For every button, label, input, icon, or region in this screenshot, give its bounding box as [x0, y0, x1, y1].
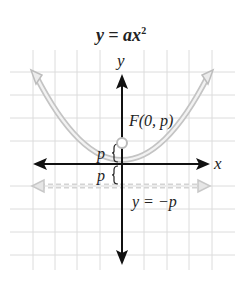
focus-point-icon: [117, 138, 127, 148]
lower-distance-label: p: [97, 168, 105, 184]
x-axis-label: x: [214, 155, 222, 172]
upper-distance-label: p: [97, 146, 105, 162]
y-axis: [116, 74, 128, 265]
y-axis-label: y: [117, 52, 125, 69]
lower-brace-icon: [112, 166, 118, 184]
parabola-diagram: [0, 0, 242, 288]
focus-label: F(0, p): [129, 113, 173, 129]
directrix-label: y = −p: [132, 194, 177, 210]
directrix-right-arrow-icon: [198, 180, 210, 192]
directrix-left-arrow-icon: [32, 180, 44, 192]
